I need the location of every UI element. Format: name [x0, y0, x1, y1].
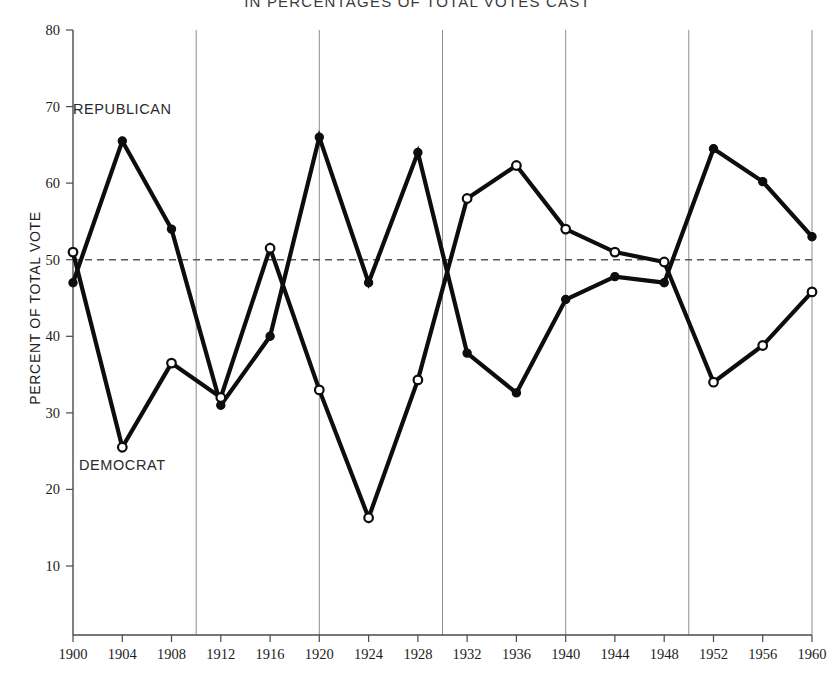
y-tick-group: 1020304050607080 [46, 22, 74, 574]
y-tick-label-40: 40 [46, 328, 61, 344]
x-tick-label-1904: 1904 [108, 646, 138, 662]
data-point-republican-1940 [562, 295, 570, 303]
data-point-republican-1932 [463, 349, 471, 357]
x-tick-label-1956: 1956 [748, 646, 777, 662]
data-point-republican-1920 [315, 133, 323, 141]
x-tick-label-1924: 1924 [354, 646, 384, 662]
data-point-democrat-1912 [217, 393, 226, 402]
x-tick-group: 1900190419081912191619201924192819321936… [59, 635, 827, 662]
data-point-republican-1952 [709, 145, 717, 153]
data-point-republican-1916 [266, 332, 274, 340]
data-point-democrat-1940 [561, 225, 570, 234]
gridlines-group [196, 30, 812, 635]
x-tick-label-1960: 1960 [798, 646, 827, 662]
y-tick-label-60: 60 [46, 175, 61, 191]
series-label-democrat: DEMOCRAT [79, 457, 166, 473]
x-tick-label-1900: 1900 [59, 646, 88, 662]
data-point-republican-1908 [167, 225, 175, 233]
data-point-democrat-1936 [512, 161, 521, 170]
data-point-republican-1944 [611, 273, 619, 281]
x-tick-label-1912: 1912 [206, 646, 235, 662]
data-point-democrat-1944 [611, 248, 620, 257]
x-tick-label-1944: 1944 [600, 646, 630, 662]
y-tick-label-70: 70 [46, 99, 61, 115]
data-point-democrat-1920 [315, 386, 324, 395]
data-point-democrat-1908 [167, 359, 176, 368]
data-point-republican-1904 [118, 137, 126, 145]
x-tick-label-1952: 1952 [699, 646, 728, 662]
y-tick-label-10: 10 [46, 558, 61, 574]
data-point-democrat-1928 [414, 376, 423, 385]
data-point-democrat-1956 [758, 341, 767, 350]
data-point-republican-1924 [365, 279, 373, 287]
x-tick-label-1948: 1948 [650, 646, 679, 662]
x-tick-label-1932: 1932 [453, 646, 482, 662]
data-point-democrat-1904 [118, 443, 127, 452]
x-tick-label-1928: 1928 [403, 646, 432, 662]
y-tick-label-50: 50 [46, 252, 61, 268]
data-point-democrat-1932 [463, 194, 472, 203]
x-tick-label-1908: 1908 [157, 646, 186, 662]
data-point-republican-1948 [660, 279, 668, 287]
y-tick-label-30: 30 [46, 405, 61, 421]
series-label-republican: REPUBLICAN [73, 101, 172, 117]
x-tick-label-1936: 1936 [502, 646, 531, 662]
data-point-republican-1936 [512, 389, 520, 397]
y-tick-label-80: 80 [46, 22, 61, 38]
data-point-democrat-1916 [266, 244, 275, 253]
series-annotations-group: REPUBLICANDEMOCRAT [73, 101, 172, 473]
election-vote-share-chart: IN PERCENTAGES OF TOTAL VOTES CAST PERCE… [0, 0, 835, 685]
data-point-republican-1900 [69, 279, 77, 287]
y-tick-label-20: 20 [46, 481, 61, 497]
data-point-democrat-1960 [808, 288, 817, 297]
data-point-democrat-1924 [364, 514, 373, 523]
data-point-republican-1960 [808, 233, 816, 241]
data-point-democrat-1900 [69, 248, 78, 257]
data-point-republican-1956 [759, 178, 767, 186]
chart-plot-area: 1020304050607080 19001904190819121916192… [0, 0, 835, 685]
x-tick-label-1940: 1940 [551, 646, 580, 662]
x-tick-label-1920: 1920 [305, 646, 334, 662]
x-tick-label-1916: 1916 [256, 646, 285, 662]
data-point-republican-1928 [414, 148, 422, 156]
data-point-democrat-1948 [660, 258, 669, 267]
data-point-democrat-1952 [709, 378, 718, 387]
